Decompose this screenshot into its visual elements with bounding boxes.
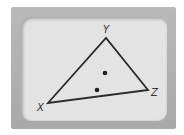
vertex-label-y: Y	[103, 24, 110, 35]
triangle-diagram: X Y Z	[0, 0, 184, 135]
vertex-label-x: X	[36, 102, 45, 113]
triangle-xyz	[48, 38, 148, 103]
vertex-label-z: Z	[150, 87, 159, 98]
interior-point-2	[95, 88, 100, 93]
interior-point-1	[103, 71, 108, 76]
